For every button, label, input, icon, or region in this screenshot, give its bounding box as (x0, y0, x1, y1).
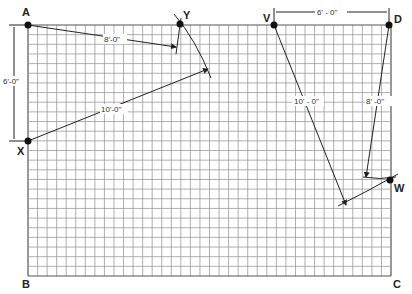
geometry-diagram: 6'-0" 8'-0" 10'-0" 6' - 0'' 10' - 0'' 8'… (0, 0, 412, 294)
dim-VD-label: 6' - 0'' (317, 8, 338, 17)
dimension-labels: 6'-0" 8'-0" 10'-0" 6' - 0'' 10' - 0'' 8'… (2, 7, 393, 114)
line-V-to-arc (274, 25, 346, 205)
label-C: C (393, 278, 401, 290)
dim-AY-label: 8'-0" (104, 35, 120, 44)
dim-VW-label: 10' - 0'' (294, 97, 320, 106)
point-D (386, 22, 393, 29)
label-X: X (17, 145, 25, 157)
label-W: W (394, 182, 405, 194)
construction-lines (9, 8, 398, 206)
point-V (271, 22, 278, 29)
label-D: D (394, 13, 402, 25)
dim-DW-label: 8' -0'' (366, 97, 385, 106)
label-V: V (263, 12, 271, 24)
point-X (25, 138, 32, 145)
dim-XY-label: 10'-0" (101, 105, 122, 114)
point-W (387, 177, 394, 184)
point-Y (177, 21, 184, 28)
line-A-to-arc (28, 25, 176, 47)
label-A: A (22, 6, 30, 18)
label-Y: Y (183, 9, 191, 21)
dim-AX-label: 6'-0" (3, 77, 19, 86)
point-A (25, 22, 32, 29)
label-B: B (22, 278, 30, 290)
grid (28, 25, 391, 276)
